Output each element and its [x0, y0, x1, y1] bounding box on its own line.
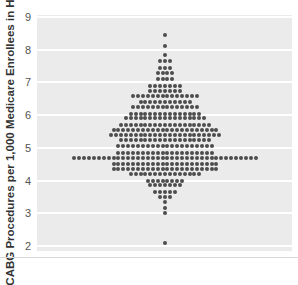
data-point	[124, 116, 128, 120]
data-point	[158, 100, 162, 104]
data-point	[180, 179, 184, 183]
data-point	[121, 128, 125, 132]
data-point	[134, 123, 138, 127]
data-point	[158, 116, 162, 120]
data-point	[214, 162, 218, 166]
data-point	[173, 123, 177, 127]
data-point	[173, 138, 177, 142]
data-point	[163, 116, 167, 120]
data-point	[163, 200, 167, 204]
data-point	[158, 84, 162, 88]
data-point	[129, 138, 133, 142]
data-point	[161, 167, 165, 171]
data-point	[195, 167, 199, 171]
data-point	[234, 156, 238, 160]
data-point	[205, 162, 209, 166]
data-point	[170, 94, 174, 98]
data-point	[136, 151, 140, 155]
data-point	[168, 190, 172, 194]
data-point	[210, 151, 214, 155]
data-point	[185, 105, 189, 109]
data-point	[200, 128, 204, 132]
data-point	[205, 156, 209, 160]
y-tick-label: 5	[22, 142, 34, 154]
data-point	[153, 172, 157, 176]
data-point	[200, 162, 204, 166]
y-tick-label: 6	[22, 109, 34, 121]
data-point	[119, 123, 123, 127]
data-point	[148, 138, 152, 142]
data-point	[163, 172, 167, 176]
data-point	[170, 105, 174, 109]
data-point	[175, 128, 179, 132]
data-point	[158, 89, 162, 93]
data-point	[197, 138, 201, 142]
data-point	[151, 167, 155, 171]
data-point	[139, 172, 143, 176]
y-tick-label: 4	[22, 175, 34, 187]
data-point	[161, 151, 165, 155]
data-point	[180, 105, 184, 109]
data-point	[207, 138, 211, 142]
data-point	[205, 128, 209, 132]
data-point	[156, 71, 160, 75]
data-point	[190, 151, 194, 155]
data-point	[168, 84, 172, 88]
data-point	[134, 133, 138, 137]
data-point	[190, 162, 194, 166]
data-point	[188, 138, 192, 142]
data-point	[188, 116, 192, 120]
data-point	[224, 156, 228, 160]
data-point	[146, 179, 150, 183]
data-point	[129, 133, 133, 137]
data-point	[168, 100, 172, 104]
data-point	[183, 116, 187, 120]
data-point	[197, 133, 201, 137]
data-point	[139, 100, 143, 104]
data-point	[131, 105, 135, 109]
data-point	[116, 128, 120, 132]
data-point	[109, 133, 113, 137]
data-point	[163, 112, 167, 116]
data-point	[229, 156, 233, 160]
data-point	[180, 94, 184, 98]
data-point	[185, 167, 189, 171]
data-point	[170, 156, 174, 160]
data-point	[168, 59, 172, 63]
data-point	[112, 162, 116, 166]
data-point	[126, 151, 130, 155]
data-point	[178, 84, 182, 88]
data-point	[178, 112, 182, 116]
data-point	[170, 179, 174, 183]
data-point	[136, 156, 140, 160]
data-point	[205, 151, 209, 155]
data-point	[161, 144, 165, 148]
data-point	[139, 112, 143, 116]
data-point	[163, 59, 167, 63]
data-point	[153, 183, 157, 187]
data-point	[156, 94, 160, 98]
data-point	[97, 156, 101, 160]
bottom-divider	[0, 257, 298, 258]
data-point	[195, 105, 199, 109]
data-point	[139, 138, 143, 142]
data-point	[185, 156, 189, 160]
y-tick-label: 9	[22, 11, 34, 23]
data-point	[163, 183, 167, 187]
y-tick-label: 3	[22, 207, 34, 219]
data-point	[197, 116, 201, 120]
data-point	[178, 138, 182, 142]
data-point	[161, 77, 165, 81]
data-point	[192, 133, 196, 137]
data-point	[134, 138, 138, 142]
data-point	[180, 167, 184, 171]
data-point	[188, 172, 192, 176]
y-axis-label-text: CABG Procedures per 1,000 Medicare Enrol…	[4, 0, 16, 285]
data-point	[143, 172, 147, 176]
data-point	[175, 94, 179, 98]
data-point	[178, 172, 182, 176]
data-point	[116, 162, 120, 166]
data-point	[175, 162, 179, 166]
data-point	[141, 105, 145, 109]
data-point	[183, 138, 187, 142]
